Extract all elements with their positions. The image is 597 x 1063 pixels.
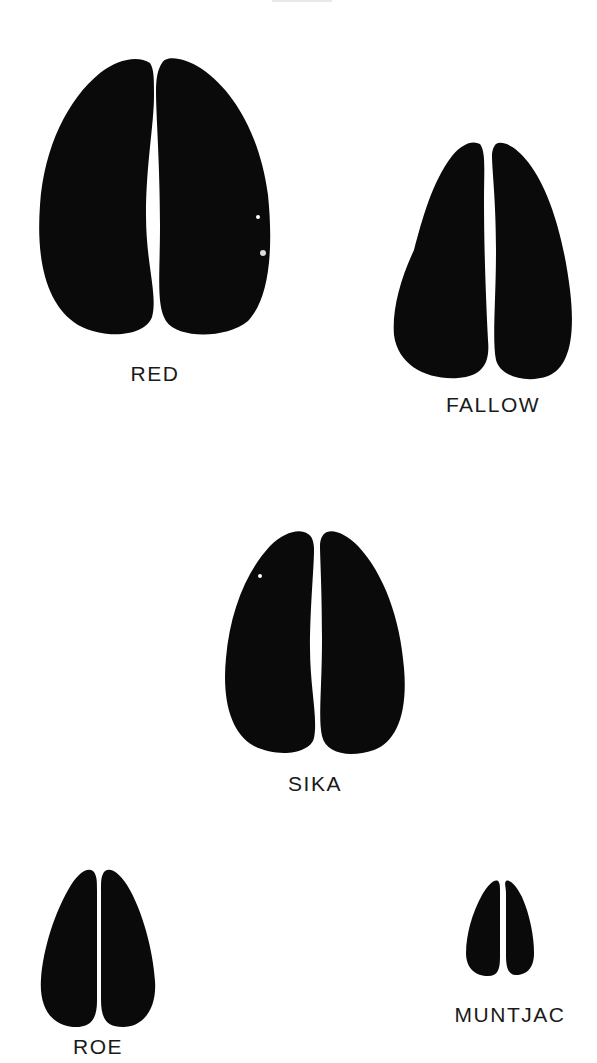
fallow-deer-track: [392, 140, 574, 380]
fallow-label: FALLOW: [433, 393, 553, 417]
red-label: RED: [105, 362, 205, 386]
hoof-print-icon: [39, 867, 157, 1029]
roe-deer-track: [39, 867, 157, 1029]
hoof-print-icon: [464, 879, 536, 977]
red-deer-track: [38, 55, 272, 337]
sika-deer-track: [224, 528, 406, 754]
hoof-print-icon: [392, 140, 574, 380]
roe-label: ROE: [48, 1035, 148, 1059]
hoof-print-icon: [38, 55, 272, 337]
cropped-top-mark: [272, 0, 332, 2]
hoof-print-icon: [224, 528, 406, 754]
sika-label: SIKA: [265, 772, 365, 796]
muntjac-deer-track: [464, 879, 536, 977]
muntjac-label: MUNTJAC: [440, 1003, 580, 1027]
